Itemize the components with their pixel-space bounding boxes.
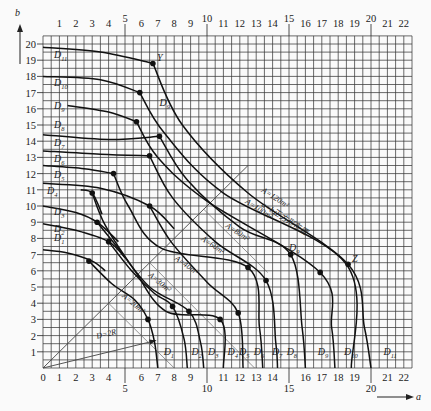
x-tick-bottom: 9 bbox=[188, 372, 193, 383]
d-curve-label: D4 bbox=[227, 346, 239, 359]
y-ticks: 1234567891011121314151617181920 bbox=[26, 39, 44, 358]
area-label: A=40m² bbox=[172, 253, 200, 276]
chart: 12345678910111213141516171819202122 0123… bbox=[0, 0, 431, 411]
y-tick: 8 bbox=[31, 233, 36, 244]
x-tick-bottom: 22 bbox=[399, 372, 410, 383]
knee-point bbox=[106, 239, 112, 245]
x-tick-bottom: 17 bbox=[317, 372, 328, 383]
y-tick: 3 bbox=[31, 314, 36, 325]
x-tick-top: 3 bbox=[90, 18, 95, 29]
d-curve-label: D8 bbox=[286, 346, 298, 359]
knee-point bbox=[86, 258, 92, 264]
x-tick-bottom: 13 bbox=[251, 372, 262, 383]
x-tick-bottom: 7 bbox=[155, 372, 160, 383]
x-ticks-bottom: 012345678910111213141516171819202122 bbox=[40, 368, 409, 394]
knee-point bbox=[345, 262, 351, 268]
knee-point bbox=[134, 119, 140, 125]
x-tick-bottom: 18 bbox=[333, 372, 344, 383]
y-tick: 20 bbox=[26, 39, 37, 50]
d-curve-label: D1 bbox=[163, 346, 174, 359]
x-tick-top: 2 bbox=[73, 18, 78, 29]
x-tick-bottom: 19 bbox=[349, 372, 360, 383]
x-tick-top: 22 bbox=[399, 18, 410, 29]
x-tick-bottom: 3 bbox=[90, 372, 95, 383]
knee-point bbox=[235, 310, 241, 316]
x-tick-top: 7 bbox=[155, 18, 160, 29]
knee-point bbox=[170, 304, 176, 310]
x-tick-top: 19 bbox=[349, 18, 360, 29]
x-tick-top: 11 bbox=[218, 18, 228, 29]
knee-point bbox=[263, 278, 269, 284]
y-tick: 15 bbox=[26, 120, 37, 131]
y-tick: 19 bbox=[26, 55, 37, 66]
area-label: A=60m² bbox=[199, 234, 227, 257]
d-curve-branch bbox=[159, 136, 305, 368]
d-curve-label: D11 bbox=[382, 346, 396, 359]
x-tick-bottom: 14 bbox=[267, 372, 278, 383]
d-curve-branch bbox=[150, 156, 278, 368]
x-tick-top: 13 bbox=[251, 18, 262, 29]
x-tick-bottom: 0 bbox=[40, 372, 45, 383]
x-tick-bottom: 12 bbox=[235, 372, 246, 383]
x-axis-arrow: a bbox=[377, 391, 421, 402]
x-tick-bottom: 2 bbox=[73, 372, 78, 383]
x-tick-bottom: 1 bbox=[57, 372, 62, 383]
y-tick: 7 bbox=[31, 250, 36, 261]
x-ticks-top: 12345678910111213141516171819202122 bbox=[57, 13, 409, 36]
x-tick-bottom: 11 bbox=[218, 372, 228, 383]
knee-point bbox=[147, 203, 153, 209]
knee-point bbox=[94, 219, 100, 225]
d-curve-label: D6 bbox=[253, 346, 265, 359]
y-tick: 14 bbox=[26, 136, 37, 147]
y-tick: 4 bbox=[31, 298, 37, 309]
knee-point bbox=[137, 90, 143, 96]
y-tick: 17 bbox=[26, 88, 37, 99]
x-tick-top: 9 bbox=[188, 18, 193, 29]
x-tick-bottom: 15 bbox=[284, 383, 295, 394]
x-tick-top: 8 bbox=[172, 18, 177, 29]
area-label: A=80m² bbox=[223, 221, 251, 244]
d-curve-label: D9 bbox=[317, 346, 329, 359]
d-curve-label: D9 bbox=[158, 97, 170, 110]
d-curve-label: D4 bbox=[46, 185, 58, 198]
x-tick-bottom: 4 bbox=[106, 372, 112, 383]
knee-point bbox=[111, 171, 117, 177]
y-tick: 2 bbox=[31, 331, 36, 342]
d-curve-label: D3 bbox=[207, 346, 219, 359]
x-tick-bottom: 16 bbox=[300, 372, 311, 383]
x-tick-top: 5 bbox=[122, 13, 127, 24]
x-tick-bottom: 6 bbox=[139, 372, 144, 383]
d-curve-plateau bbox=[68, 106, 137, 122]
knee-point bbox=[150, 61, 156, 67]
radius-label: D=2R bbox=[94, 327, 117, 341]
y-tick: 13 bbox=[26, 152, 37, 163]
knee-point bbox=[186, 309, 192, 315]
y-tick: 5 bbox=[31, 282, 36, 293]
point-label: Z bbox=[352, 253, 358, 264]
point-label: Y bbox=[157, 52, 164, 63]
y-axis-label: b bbox=[15, 7, 20, 18]
x-axis-label: a bbox=[416, 391, 421, 402]
x-tick-bottom: 8 bbox=[172, 372, 177, 383]
x-tick-top: 6 bbox=[139, 18, 144, 29]
y-tick: 10 bbox=[26, 201, 37, 212]
x-tick-top: 20 bbox=[366, 13, 377, 24]
knee-point bbox=[89, 190, 95, 196]
x-tick-top: 21 bbox=[382, 18, 393, 29]
d-curve-label: D10 bbox=[343, 346, 358, 359]
x-tick-top: 16 bbox=[300, 18, 311, 29]
y-tick: 11 bbox=[26, 185, 36, 196]
x-tick-bottom: 5 bbox=[122, 383, 127, 394]
x-tick-top: 14 bbox=[267, 18, 278, 29]
x-tick-top: 17 bbox=[317, 18, 328, 29]
x-tick-bottom: 21 bbox=[382, 372, 393, 383]
x-tick-top: 12 bbox=[235, 18, 246, 29]
y-tick: 6 bbox=[31, 266, 36, 277]
radius-line bbox=[43, 340, 156, 368]
y-tick: 9 bbox=[31, 217, 36, 228]
square-layout-line bbox=[43, 166, 248, 369]
knee-point bbox=[145, 317, 151, 323]
knee-point bbox=[217, 317, 223, 323]
x-tick-top: 1 bbox=[57, 18, 62, 29]
knee-point bbox=[147, 153, 153, 159]
